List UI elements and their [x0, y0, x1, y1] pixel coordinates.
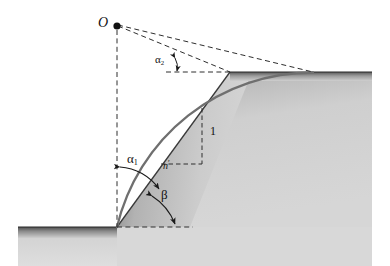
label-beta: β — [161, 188, 168, 201]
label-center-point: O — [98, 16, 108, 30]
radius-to-arc-exit — [118, 25, 313, 72]
center-point-dot — [113, 22, 120, 29]
label-horizontal-unit: n′ — [163, 160, 170, 171]
label-vertical-unit: 1 — [210, 125, 216, 137]
label-alpha1: α1 — [127, 152, 138, 167]
prime-symbol: ′ — [168, 159, 170, 168]
slope-stability-figure: O α1 α2 β 1 n′ — [0, 0, 390, 266]
label-alpha2: α2 — [155, 54, 164, 67]
alpha2-subscript: 2 — [161, 59, 164, 66]
alpha1-subscript: 1 — [134, 158, 138, 167]
radius-to-crest — [118, 26, 230, 72]
alpha2-angle-arc — [175, 58, 177, 71]
soil-apron — [117, 227, 372, 266]
diagram-canvas — [0, 0, 390, 266]
alpha1-symbol: α — [127, 151, 134, 166]
lower-ground-surface — [18, 227, 117, 266]
